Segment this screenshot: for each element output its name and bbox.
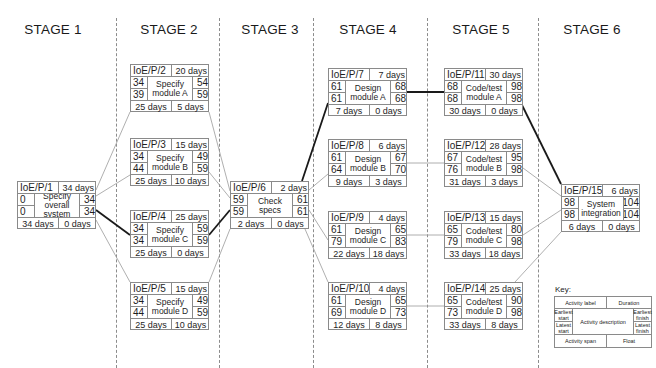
- key-latest-finish: Latest finish: [633, 322, 651, 335]
- activity-duration: 4 days: [370, 212, 407, 224]
- activity-node-p10[interactable]: IoE/P/10 4 days 61 69 Design module D 65…: [328, 282, 407, 330]
- activity-node-p6[interactable]: IoE/P/6 2 days 59 59 Check specs 61 61 2…: [230, 181, 309, 229]
- activity-duration: 28 days: [486, 140, 523, 152]
- latest-start: 73: [445, 307, 462, 319]
- activity-node-p13[interactable]: IoE/P/13 15 days 65 79 Code/test module …: [444, 211, 523, 259]
- activity-node-p7[interactable]: IoE/P/7 7 days 61 61 Design module A 68 …: [328, 68, 407, 116]
- earliest-finish: 61: [292, 194, 309, 206]
- activity-label: IoE/P/13: [445, 212, 486, 224]
- activity-span: 6 days: [562, 221, 603, 232]
- earliest-start: 61: [329, 152, 346, 164]
- activity-description: Code/test module D: [462, 295, 506, 319]
- latest-start: 64: [329, 164, 346, 176]
- latest-finish: 59: [192, 307, 209, 319]
- activity-span: 22 days: [329, 248, 370, 259]
- link-p6-p8: [309, 174, 328, 190]
- activity-label: IoE/P/8: [329, 140, 370, 152]
- activity-duration: 7 days: [370, 69, 407, 81]
- activity-label: IoE/P/9: [329, 212, 370, 224]
- key-activity-label: Activity label: [555, 297, 607, 309]
- latest-finish: 61: [292, 206, 309, 218]
- latest-finish: 70: [390, 164, 407, 176]
- activity-label: IoE/P/15: [562, 185, 603, 197]
- activity-float: 3 days: [486, 176, 523, 187]
- activity-float: 0 days: [486, 105, 523, 116]
- activity-node-p3[interactable]: IoE/P/3 15 days 34 44 Specify module B 4…: [130, 138, 209, 186]
- latest-start: 61: [329, 93, 346, 105]
- activity-span: 33 days: [445, 248, 486, 259]
- key-activity-description: Activity description: [573, 309, 633, 335]
- activity-float: 0 days: [370, 105, 407, 116]
- key-legend: Activity label Duration Earliest start L…: [554, 296, 652, 348]
- activity-float: 0 days: [603, 221, 640, 232]
- earliest-start: 68: [445, 81, 462, 93]
- activity-node-p11[interactable]: IoE/P/11 30 days 68 68 Code/test module …: [444, 68, 523, 116]
- earliest-finish: 98: [506, 81, 523, 93]
- key-earliest-start: Earliest start: [555, 309, 573, 322]
- activity-description: System integration: [579, 197, 623, 221]
- activity-description: Specify module C: [148, 223, 192, 247]
- key-earliest-finish: Earliest finish: [633, 309, 651, 322]
- latest-finish: 98: [506, 164, 523, 176]
- earliest-finish: 49: [192, 295, 209, 307]
- link-p11-p15: [518, 97, 561, 184]
- latest-start: 0: [18, 206, 35, 218]
- earliest-start: 0: [18, 194, 35, 206]
- latest-finish: 34: [79, 206, 96, 218]
- activity-label: IoE/P/7: [329, 69, 370, 81]
- activity-node-p4[interactable]: IoE/P/4 25 days 34 34 Specify module C 5…: [130, 210, 209, 258]
- earliest-finish: 90: [506, 295, 523, 307]
- earliest-start: 34: [131, 77, 148, 89]
- activity-node-p14[interactable]: IoE/P/14 25 days 65 73 Code/test module …: [444, 282, 523, 330]
- earliest-finish: 95: [506, 152, 523, 164]
- activity-span: 7 days: [329, 105, 370, 116]
- key-title: Key:: [555, 285, 571, 294]
- activity-label: IoE/P/1: [18, 182, 59, 194]
- activity-duration: 25 days: [486, 283, 523, 295]
- activity-span: 25 days: [131, 319, 172, 330]
- latest-start: 44: [131, 163, 148, 175]
- activity-duration: 25 days: [172, 211, 209, 223]
- activity-description: Specify overall system: [35, 194, 79, 218]
- activity-description: Specify module D: [148, 295, 192, 319]
- latest-finish: 83: [390, 236, 407, 248]
- link-p2-p6: [209, 112, 230, 191]
- activity-description: Specify module A: [148, 77, 192, 101]
- earliest-finish: 65: [390, 295, 407, 307]
- activity-float: 0 days: [272, 218, 309, 229]
- earliest-start: 34: [131, 295, 148, 307]
- earliest-start: 98: [562, 197, 579, 209]
- earliest-finish: 67: [390, 152, 407, 164]
- earliest-finish: 49: [192, 151, 209, 163]
- latest-finish: 59: [192, 235, 209, 247]
- activity-description: Design module A: [346, 81, 390, 105]
- activity-description: Specify module B: [148, 151, 192, 175]
- activity-description: Design module D: [346, 295, 390, 319]
- activity-span: 2 days: [231, 218, 272, 229]
- activity-node-p9[interactable]: IoE/P/9 4 days 61 79 Design module C 65 …: [328, 211, 407, 259]
- activity-node-p15[interactable]: IoE/P/15 6 days 98 98 System integration…: [561, 184, 640, 232]
- activity-node-p12[interactable]: IoE/P/12 28 days 67 76 Code/test module …: [444, 139, 523, 187]
- activity-span: 33 days: [445, 319, 486, 330]
- activity-node-p5[interactable]: IoE/P/5 15 days 34 44 Specify module D 4…: [130, 282, 209, 330]
- latest-start: 44: [131, 307, 148, 319]
- earliest-finish: 80: [506, 224, 523, 236]
- activity-node-p8[interactable]: IoE/P/8 6 days 61 64 Design module B 67 …: [328, 139, 407, 187]
- activity-float: 10 days: [172, 319, 209, 330]
- activity-duration: 20 days: [172, 65, 209, 77]
- activity-float: 3 days: [370, 176, 407, 187]
- key-float: Float: [607, 335, 651, 347]
- earliest-start: 61: [329, 224, 346, 236]
- activity-description: Code/test module A: [462, 81, 506, 105]
- activity-node-p2[interactable]: IoE/P/2 20 days 34 39 Specify module A 5…: [130, 64, 209, 112]
- activity-label: IoE/P/5: [131, 283, 172, 295]
- latest-finish: 98: [506, 236, 523, 248]
- activity-float: 18 days: [370, 248, 407, 259]
- latest-start: 79: [329, 236, 346, 248]
- activity-node-p1[interactable]: IoE/P/1 34 days 0 0 Specify overall syst…: [17, 181, 96, 229]
- activity-label: IoE/P/10: [329, 283, 370, 295]
- activity-span: 31 days: [445, 176, 486, 187]
- link-p6-p7: [302, 103, 328, 181]
- activity-span: 34 days: [18, 218, 59, 229]
- latest-finish: 98: [506, 93, 523, 105]
